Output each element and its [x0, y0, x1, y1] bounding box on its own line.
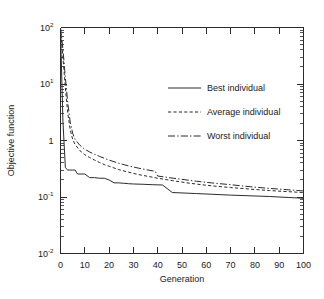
x-tick-label: 80	[250, 260, 260, 270]
y-tick-label: 10-2	[38, 247, 54, 259]
legend-label: Average individual	[207, 107, 280, 117]
x-tick-label: 0	[58, 260, 63, 270]
y-tick-label: 102	[40, 21, 54, 33]
x-tick-label: 50	[177, 260, 187, 270]
y-tick-label: 101	[40, 77, 54, 89]
x-tick-label: 10	[80, 260, 90, 270]
axis-labels-group: 10-210-111011020102030405060708090100Gen…	[6, 21, 311, 284]
objective-function-log-plot: 10-210-111011020102030405060708090100Gen…	[0, 0, 324, 299]
x-tick-label: 20	[104, 260, 114, 270]
x-tick-label: 40	[153, 260, 163, 270]
x-tick-label: 60	[201, 260, 211, 270]
legend-label: Worst individual	[207, 131, 270, 141]
y-tick-label: 1	[48, 136, 53, 146]
y-axis-title: Objective function	[6, 105, 16, 177]
x-tick-label: 30	[128, 260, 138, 270]
x-tick-label: 90	[274, 260, 284, 270]
chart-legend: Best individualAverage individualWorst i…	[168, 83, 280, 141]
chart-figure: 10-210-111011020102030405060708090100Gen…	[0, 0, 324, 299]
x-tick-label: 100	[296, 260, 311, 270]
x-tick-label: 70	[226, 260, 236, 270]
y-tick-label: 10-1	[38, 190, 54, 202]
x-axis-title: Generation	[160, 274, 205, 284]
legend-label: Best individual	[207, 83, 265, 93]
